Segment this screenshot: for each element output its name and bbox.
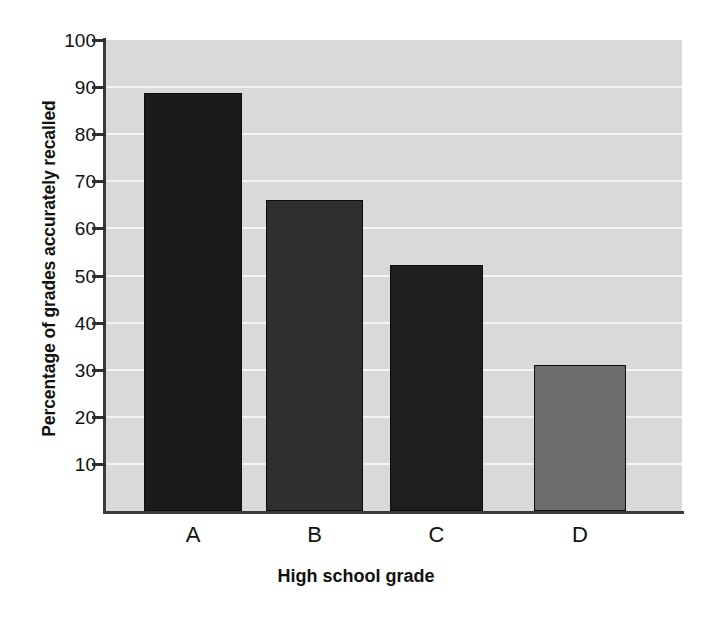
bar-A <box>144 93 242 511</box>
y-tick-label-40: 40 <box>46 313 96 332</box>
y-axis-tick-20 <box>92 416 106 419</box>
y-axis-tick-30 <box>92 369 106 372</box>
y-axis-tick-80 <box>92 133 106 136</box>
bar-D <box>534 365 626 511</box>
x-tick-label-A: A <box>186 524 201 546</box>
x-tick-label-B: B <box>307 524 322 546</box>
gridline-90 <box>105 86 682 88</box>
y-axis-tick-60 <box>92 227 106 230</box>
x-axis-title: High school grade <box>0 566 712 587</box>
x-tick-label-C: C <box>429 524 445 546</box>
y-tick-label-50: 50 <box>46 266 96 285</box>
y-tick-label-80: 80 <box>46 125 96 144</box>
y-axis-tick-50 <box>92 275 106 278</box>
y-tick-label-100: 100 <box>46 31 96 50</box>
y-tick-label-20: 20 <box>46 407 96 426</box>
y-tick-label-70: 70 <box>46 172 96 191</box>
y-axis-tick-40 <box>92 322 106 325</box>
y-tick-label-30: 30 <box>46 360 96 379</box>
y-axis-tick-70 <box>92 180 106 183</box>
y-axis-tick-labels: 102030405060708090100 <box>46 0 96 619</box>
bar-C <box>390 265 483 511</box>
y-tick-label-10: 10 <box>46 454 96 473</box>
y-tick-label-90: 90 <box>46 78 96 97</box>
y-tick-label-60: 60 <box>46 219 96 238</box>
x-tick-label-D: D <box>572 524 588 546</box>
plot-area <box>105 40 682 511</box>
x-axis-line <box>103 511 684 514</box>
y-axis-tick-90 <box>92 86 106 89</box>
bar-B <box>266 200 363 511</box>
y-axis-tick-100 <box>92 39 106 42</box>
bar-chart-figure: Percentage of grades accurately recalled… <box>0 0 712 619</box>
y-axis-tick-10 <box>92 463 106 466</box>
